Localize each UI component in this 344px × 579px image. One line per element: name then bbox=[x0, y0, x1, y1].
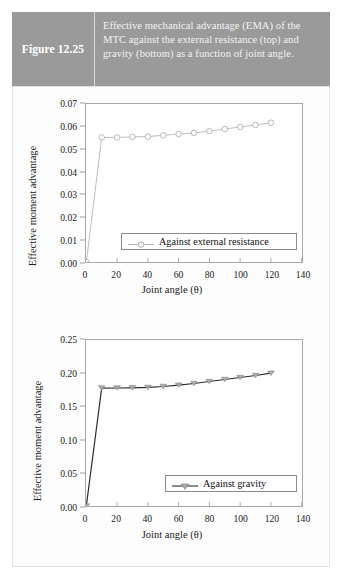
chart-bottom-y-tick-labels: 0.000.050.100.150.200.25 bbox=[45, 339, 77, 507]
figure-caption-band: Figure 12.25 Effective mechanical advant… bbox=[12, 12, 330, 86]
x-tick-label: 60 bbox=[174, 513, 184, 524]
x-tick-label: 0 bbox=[83, 513, 88, 524]
y-tick-label: 0.00 bbox=[45, 502, 77, 513]
chart-top-legend-label: Against external resistance bbox=[159, 236, 269, 247]
chart-bottom-legend-label: Against gravity bbox=[203, 478, 266, 489]
y-tick-label: 0.01 bbox=[45, 235, 77, 246]
figure-caption-cell: Effective mechanical advantage (EMA) of … bbox=[95, 12, 330, 86]
figure-number-cell: Figure 12.25 bbox=[12, 12, 95, 86]
chart-top: Effective moment advantage 0.000.010.020… bbox=[13, 93, 331, 319]
x-tick-label: 20 bbox=[111, 269, 121, 280]
x-tick-label: 100 bbox=[234, 513, 248, 524]
figure-container: Figure 12.25 Effective mechanical advant… bbox=[0, 0, 344, 579]
chart-top-y-axis-title: Effective moment advantage bbox=[27, 139, 38, 274]
x-tick-label: 80 bbox=[205, 513, 215, 524]
figure-number-label: Figure 12.25 bbox=[22, 43, 84, 55]
y-tick-label: 0.03 bbox=[45, 189, 77, 200]
y-tick-label: 0.07 bbox=[45, 98, 77, 109]
figure-caption-text: Effective mechanical advantage (EMA) of … bbox=[103, 19, 322, 62]
chart-bottom-legend: Against gravity bbox=[165, 475, 297, 492]
x-tick-label: 140 bbox=[296, 513, 310, 524]
y-tick-label: 0.05 bbox=[45, 468, 77, 479]
y-tick-label: 0.04 bbox=[45, 166, 77, 177]
legend-marker-triangle-icon bbox=[171, 478, 199, 489]
x-tick-label: 120 bbox=[265, 513, 279, 524]
x-tick-label: 60 bbox=[174, 269, 184, 280]
x-tick-label: 20 bbox=[111, 513, 121, 524]
y-tick-label: 0.15 bbox=[45, 401, 77, 412]
y-tick-label: 0.05 bbox=[45, 143, 77, 154]
x-tick-label: 40 bbox=[142, 513, 152, 524]
y-tick-label: 0.02 bbox=[45, 212, 77, 223]
chart-bottom-x-axis-title: Joint angle (θ) bbox=[13, 529, 331, 540]
chart-top-legend: Against external resistance bbox=[121, 233, 297, 250]
x-tick-label: 0 bbox=[83, 269, 88, 280]
y-tick-label: 0.00 bbox=[45, 258, 77, 269]
x-tick-label: 120 bbox=[265, 269, 279, 280]
x-tick-label: 80 bbox=[205, 269, 215, 280]
x-tick-label: 40 bbox=[142, 269, 152, 280]
x-tick-label: 140 bbox=[296, 269, 310, 280]
chart-top-y-tick-labels: 0.000.010.020.030.040.050.060.07 bbox=[45, 103, 77, 263]
y-tick-label: 0.06 bbox=[45, 120, 77, 131]
x-tick-label: 100 bbox=[234, 269, 248, 280]
figure-body: Effective moment advantage 0.000.010.020… bbox=[12, 86, 330, 567]
chart-top-x-axis-title: Joint angle (θ) bbox=[13, 284, 331, 295]
chart-bottom: Effective moment advantage 0.000.050.100… bbox=[13, 323, 331, 559]
y-tick-label: 0.20 bbox=[45, 367, 77, 378]
y-tick-label: 0.10 bbox=[45, 434, 77, 445]
legend-marker-circle-icon bbox=[127, 236, 155, 247]
chart-bottom-y-axis-title: Effective moment advantage bbox=[32, 369, 43, 514]
y-tick-label: 0.25 bbox=[45, 334, 77, 345]
